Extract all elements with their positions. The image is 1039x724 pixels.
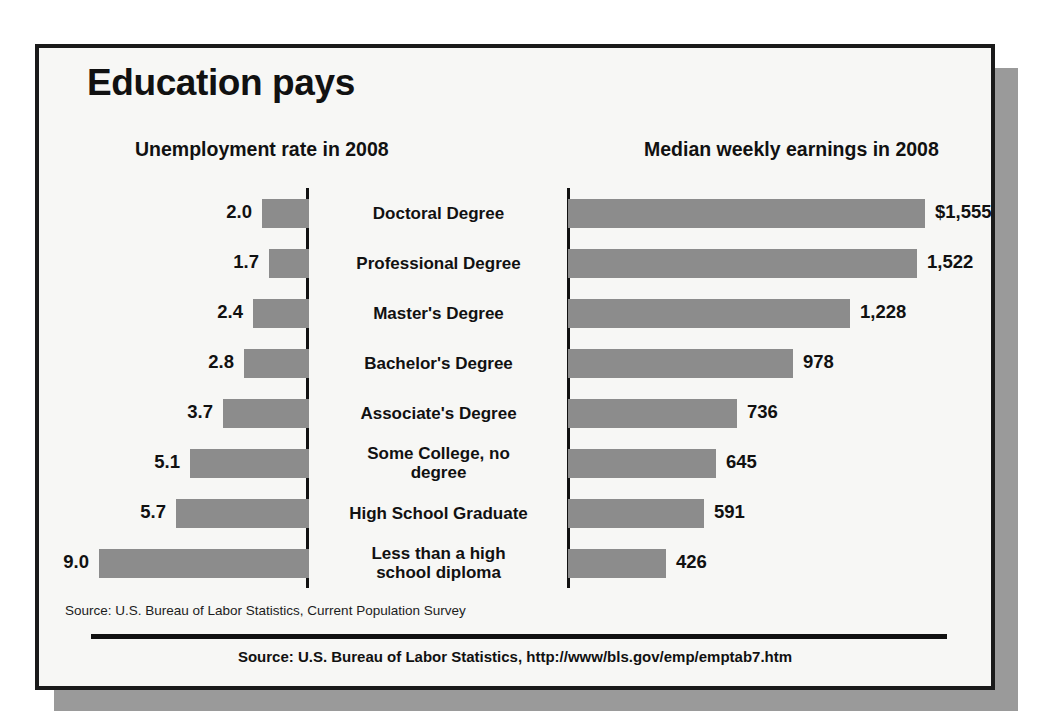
earnings-value-label: 426 xyxy=(676,551,707,573)
earnings-bar xyxy=(568,399,737,428)
earnings-value-label: $1,555 xyxy=(935,201,992,223)
category-label: Professional Degree xyxy=(311,254,566,273)
left-panel-title: Unemployment rate in 2008 xyxy=(135,138,389,161)
earnings-bar xyxy=(568,449,716,478)
unemployment-bar xyxy=(223,399,309,428)
unemployment-value-label: 3.7 xyxy=(187,401,213,423)
category-label: Doctoral Degree xyxy=(311,204,566,223)
earnings-value-label: 736 xyxy=(747,401,778,423)
unemployment-value-label: 5.7 xyxy=(140,501,166,523)
earnings-bar xyxy=(568,249,917,278)
right-panel-title: Median weekly earnings in 2008 xyxy=(644,138,939,161)
earnings-bar xyxy=(568,199,925,228)
earnings-bar xyxy=(568,349,793,378)
category-label: Master's Degree xyxy=(311,304,566,323)
poster-stage: Education pays Unemployment rate in 2008… xyxy=(0,0,1039,724)
category-label: Associate's Degree xyxy=(311,404,566,423)
earnings-bar xyxy=(568,549,666,578)
education-pays-poster: Education pays Unemployment rate in 2008… xyxy=(35,44,995,690)
earnings-value-label: 591 xyxy=(714,501,745,523)
category-label: Some College, nodegree xyxy=(311,444,566,482)
earnings-value-label: 1,522 xyxy=(927,251,973,273)
unemployment-bar xyxy=(99,549,309,578)
unemployment-value-label: 5.1 xyxy=(154,451,180,473)
unemployment-bar xyxy=(176,499,309,528)
unemployment-bar xyxy=(269,249,309,278)
category-label: Bachelor's Degree xyxy=(311,354,566,373)
source-footer: Source: U.S. Bureau of Labor Statistics,… xyxy=(39,648,991,665)
source-note: Source: U.S. Bureau of Labor Statistics,… xyxy=(65,603,466,618)
unemployment-value-label: 2.4 xyxy=(217,301,243,323)
earnings-value-label: 645 xyxy=(726,451,757,473)
footer-divider xyxy=(91,634,947,639)
category-label: High School Graduate xyxy=(311,504,566,523)
unemployment-value-label: 2.0 xyxy=(226,201,252,223)
unemployment-bar xyxy=(190,449,309,478)
earnings-bar xyxy=(568,299,850,328)
unemployment-value-label: 1.7 xyxy=(233,251,259,273)
unemployment-bar xyxy=(253,299,309,328)
earnings-chart-zone: $1,5551,5221,228978736645591426 xyxy=(568,188,998,588)
unemployment-value-label: 2.8 xyxy=(208,351,234,373)
earnings-value-label: 978 xyxy=(803,351,834,373)
poster-inner: Education pays Unemployment rate in 2008… xyxy=(39,48,991,686)
unemployment-value-label: 9.0 xyxy=(63,551,89,573)
chart-body: 2.01.72.42.83.75.15.79.0 $1,5551,5221,22… xyxy=(39,188,991,588)
unemployment-bar xyxy=(244,349,309,378)
earnings-bar xyxy=(568,499,704,528)
earnings-value-label: 1,228 xyxy=(860,301,906,323)
category-label: Less than a highschool diploma xyxy=(311,544,566,582)
unemployment-chart-zone: 2.01.72.42.83.75.15.79.0 xyxy=(39,188,309,588)
unemployment-bar xyxy=(262,199,309,228)
page-title: Education pays xyxy=(87,62,355,104)
